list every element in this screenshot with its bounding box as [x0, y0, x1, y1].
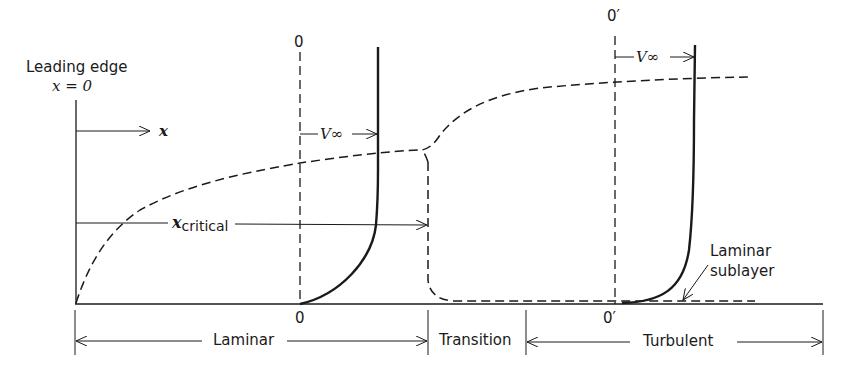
- turbulent-bl-edge: [422, 77, 750, 162]
- laminar-origin-top-label: 0: [294, 35, 304, 50]
- x-critical-subscript: critical: [182, 218, 229, 234]
- x-axis-label: x: [159, 124, 168, 139]
- sublayer-label-line2: sublayer: [710, 264, 774, 279]
- x-critical-symbol: x: [172, 213, 182, 232]
- laminar-velocity-profile: [300, 47, 378, 304]
- leading-edge-x0-label: x = 0: [52, 79, 92, 94]
- region-transition-label: Transition: [439, 333, 512, 348]
- turbulent-origin-bottom-label: 0′: [603, 311, 616, 326]
- sublayer-leader-arrow: [683, 265, 708, 300]
- turbulent-origin-top-label: 0′: [607, 9, 620, 24]
- region-laminar-label: Laminar: [213, 333, 274, 348]
- turbulent-velocity-profile: [622, 45, 695, 303]
- region-turbulent-label: Turbulent: [643, 334, 713, 349]
- turbulent-vinf-label: V∞: [636, 50, 659, 65]
- transition-drop: [428, 162, 755, 301]
- laminar-origin-bottom-label: 0: [295, 311, 305, 326]
- x-critical-arrow: [235, 224, 427, 225]
- boundary-layer-diagram: [0, 0, 850, 365]
- laminar-vinf-label: V∞: [320, 127, 343, 142]
- leading-edge-label: Leading edge: [26, 60, 128, 75]
- sublayer-label-line1: Laminar: [710, 244, 771, 259]
- laminar-bl-edge: [76, 150, 420, 303]
- x-critical-label: xcritical: [172, 215, 228, 231]
